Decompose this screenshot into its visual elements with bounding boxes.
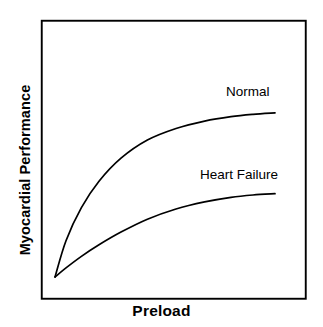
- y-axis-title: Myocardial Performance: [18, 85, 33, 256]
- frank-starling-curve-figure: Myocardial Performance Preload Normal He…: [0, 0, 323, 327]
- x-axis-title: Preload: [0, 303, 323, 319]
- curve-label-normal: Normal: [226, 85, 270, 99]
- curve-label-heart-failure: Heart Failure: [200, 168, 278, 182]
- plot-area: [0, 0, 323, 327]
